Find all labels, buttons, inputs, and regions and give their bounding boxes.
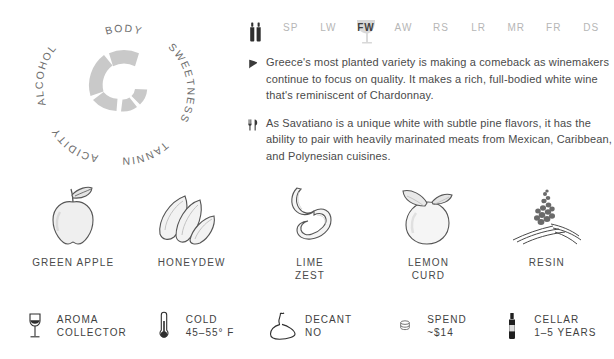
decanter-icon bbox=[268, 311, 298, 341]
service-decant: DECANT NO bbox=[251, 311, 369, 341]
flavor-resin: RESIN bbox=[488, 182, 606, 269]
bottle-icon bbox=[497, 311, 527, 341]
tab-ds[interactable]: DS bbox=[573, 18, 611, 48]
radial-segment-sweetness bbox=[132, 89, 148, 105]
tab-aw[interactable]: AW bbox=[385, 18, 423, 48]
description-row-varietal: Greece's most planted variety is making … bbox=[248, 54, 614, 104]
service-spend: SPEND ~$14 bbox=[369, 311, 487, 341]
flavor-label-resin: RESIN bbox=[529, 256, 565, 269]
service-glass-type: AROMA COLLECTOR bbox=[14, 311, 132, 341]
flavor-label-honeydew: HONEYDEW bbox=[158, 256, 226, 269]
flavor-label-green-apple: GREEN APPLE bbox=[32, 256, 114, 269]
tab-label-aw: AW bbox=[395, 22, 413, 33]
spoke-label-acidity: ACIDITY bbox=[48, 126, 99, 166]
grape-leaf-icon bbox=[248, 54, 266, 104]
radial-chart-svg: BODY SWEETNESS TANNIN ACIDITY ALCOHOL bbox=[8, 4, 240, 174]
radial-segment-acidity bbox=[93, 92, 118, 111]
two-bottles-icon bbox=[248, 22, 266, 44]
tab-mr[interactable]: MR bbox=[497, 18, 535, 48]
flavor-lime-zest: LIME ZEST bbox=[251, 182, 369, 282]
coin-icon bbox=[390, 311, 420, 341]
lemon-curd-icon bbox=[392, 182, 464, 248]
green-apple-icon bbox=[42, 182, 104, 248]
service-text-cellar: CELLAR 1–5 YEARS bbox=[534, 313, 596, 340]
tab-fr[interactable]: FR bbox=[535, 18, 573, 48]
service-text-temperature: COLD 45–55° F bbox=[186, 313, 235, 340]
service-text-decant: DECANT NO bbox=[305, 313, 352, 340]
tab-label-fr: FR bbox=[546, 22, 561, 33]
spoke-label-sweetness: SWEETNESS bbox=[166, 41, 197, 126]
flavor-notes-row: GREEN APPLE HONEYDEW bbox=[14, 182, 606, 282]
service-text-glass-type: AROMA COLLECTOR bbox=[57, 313, 127, 340]
tab-lw[interactable]: LW bbox=[310, 18, 348, 48]
flavor-label-lime-zest: LIME ZEST bbox=[295, 256, 325, 282]
resin-icon bbox=[507, 182, 587, 248]
lime-zest-icon bbox=[279, 182, 341, 248]
tab-label-fw: FW bbox=[357, 22, 375, 33]
radial-segment-body bbox=[109, 50, 139, 66]
tab-label-mr: MR bbox=[507, 22, 525, 33]
wine-structure-radial-chart: BODY SWEETNESS TANNIN ACIDITY ALCOHOL bbox=[8, 4, 240, 174]
tab-lr[interactable]: LR bbox=[460, 18, 498, 48]
service-cellar: CELLAR 1–5 YEARS bbox=[488, 311, 606, 341]
service-info-bar: AROMA COLLECTOR COLD 45–55° F bbox=[14, 300, 606, 352]
tab-label-ds: DS bbox=[583, 22, 599, 33]
wine-glass-icon bbox=[20, 311, 50, 341]
radial-segment-alcohol bbox=[89, 55, 113, 96]
honeydew-icon bbox=[152, 182, 232, 248]
tab-label-rs: RS bbox=[433, 22, 449, 33]
fork-knife-icon bbox=[248, 115, 266, 165]
tab-sp[interactable]: SP bbox=[272, 18, 310, 48]
wine-type-tab-strip[interactable]: SP LW FW AW RS bbox=[248, 18, 610, 48]
description-text-varietal: Greece's most planted variety is making … bbox=[266, 54, 614, 104]
description-text-pairing: As Savatiano is a unique white with subt… bbox=[266, 115, 614, 165]
spoke-label-tannin: TANNIN bbox=[121, 140, 171, 168]
service-temperature: COLD 45–55° F bbox=[132, 311, 250, 341]
spoke-label-alcohol: ALCOHOL bbox=[33, 41, 59, 107]
radial-segment-tannin bbox=[121, 98, 137, 112]
tab-rs[interactable]: RS bbox=[422, 18, 460, 48]
wine-description: Greece's most planted variety is making … bbox=[248, 54, 614, 175]
spoke-label-body: BODY bbox=[104, 22, 145, 37]
flavor-lemon-curd: LEMON CURD bbox=[369, 182, 487, 282]
flavor-green-apple: GREEN APPLE bbox=[14, 182, 132, 269]
description-row-pairing: As Savatiano is a unique white with subt… bbox=[248, 115, 614, 165]
service-text-spend: SPEND ~$14 bbox=[427, 313, 466, 340]
tab-label-lr: LR bbox=[471, 22, 486, 33]
thermometer-icon bbox=[149, 311, 179, 341]
tab-fw[interactable]: FW bbox=[347, 18, 385, 48]
wine-profile-card: BODY SWEETNESS TANNIN ACIDITY ALCOHOL bbox=[0, 0, 614, 359]
tab-label-sp: SP bbox=[283, 22, 298, 33]
flavor-label-lemon-curd: LEMON CURD bbox=[408, 256, 449, 282]
tab-label-lw: LW bbox=[320, 22, 336, 33]
flavor-honeydew: HONEYDEW bbox=[132, 182, 250, 269]
